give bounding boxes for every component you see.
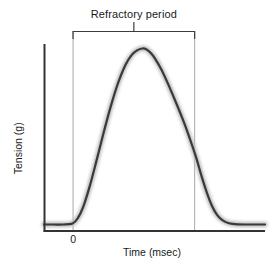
chart-axes: [44, 44, 266, 232]
tension-curve: [44, 48, 265, 224]
x-axis-label: Time (msec): [44, 247, 260, 258]
tension-curve-halo: [44, 48, 265, 224]
x-axis-tick-zero: 0: [62, 234, 84, 245]
chart-title: Refractory period: [34, 9, 234, 20]
chart-figure: Refractory period Tension (g) Time (msec…: [0, 0, 272, 266]
chart-canvas: [0, 0, 272, 266]
y-axis-label: Tension (g): [13, 100, 24, 196]
